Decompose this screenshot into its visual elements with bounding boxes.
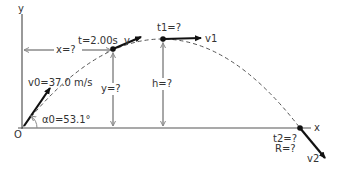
time-label: t=2.00s xyxy=(78,35,118,46)
v-label: v xyxy=(124,35,130,46)
angle-arc-icon xyxy=(31,116,37,128)
h-unknown-label: h=? xyxy=(152,78,172,89)
origin-label: O xyxy=(14,129,22,140)
x-axis-label: x xyxy=(314,122,320,133)
launch-group: v0=37.0 m/s α0=53.1° xyxy=(24,77,92,128)
projectile-diagram: y x O v0=37.0 m/s α0=53.1° x=? y=? t=2.0… xyxy=(0,0,339,173)
point-t-dot xyxy=(110,46,116,52)
apex-dot xyxy=(160,36,166,42)
v1-label: v1 xyxy=(205,33,217,44)
t1-label: t1=? xyxy=(157,22,181,33)
v1-vector-icon xyxy=(163,38,201,39)
y-unknown-label: y=? xyxy=(101,83,121,94)
apex-group: h=? t1=? v1 xyxy=(150,22,217,126)
alpha0-label: α0=53.1° xyxy=(42,114,91,125)
landing-dot xyxy=(297,125,303,131)
range-label: R=? xyxy=(275,143,296,154)
v2-label: v2 xyxy=(307,153,319,164)
y-axis-label: y xyxy=(18,3,24,14)
v0-label: v0=37.0 m/s xyxy=(28,77,92,88)
x-unknown-label: x=? xyxy=(56,44,76,55)
